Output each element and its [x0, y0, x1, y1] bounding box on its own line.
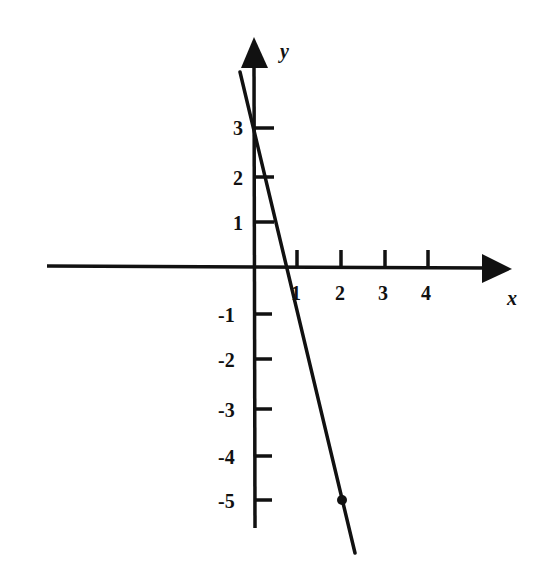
- y-tick-label: 1: [233, 212, 243, 234]
- x-tick-label: 4: [421, 282, 431, 304]
- x-axis-label: x: [506, 287, 517, 309]
- x-ticks: [297, 250, 428, 267]
- y-axis-label: y: [278, 40, 289, 63]
- y-tick-label: -2: [218, 349, 235, 371]
- x-tick-label: 3: [378, 282, 388, 304]
- y-tick-label: -5: [218, 490, 235, 512]
- y-ticks: [254, 128, 274, 500]
- y-tick-label: 3: [233, 117, 243, 139]
- x-axis-arrow-icon: [482, 254, 512, 283]
- chart-plot: 3 2 1 -1 -2 -3 -4 -5 1 2 3 4 y x: [0, 0, 555, 582]
- y-tick-label: -4: [218, 446, 235, 468]
- x-tick-label: 2: [335, 282, 345, 304]
- data-point: [337, 495, 347, 505]
- y-tick-label: -1: [218, 304, 235, 326]
- y-axis-arrow-icon: [241, 37, 268, 68]
- y-tick-label: -3: [218, 399, 235, 421]
- x-axis: [47, 266, 488, 268]
- y-tick-label: 2: [233, 167, 243, 189]
